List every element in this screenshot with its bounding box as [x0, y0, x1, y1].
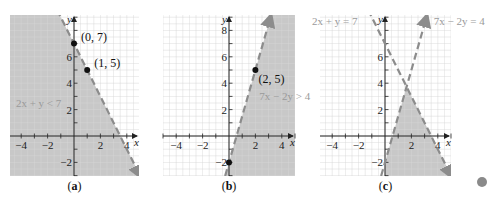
y-tick-label: 2	[222, 104, 228, 116]
x-axis-label: x	[133, 136, 139, 148]
y-tick-label: 4	[222, 77, 228, 89]
x-tick-label: −4	[170, 139, 182, 151]
x-axis-label: x	[445, 136, 451, 148]
panel-caption: (b)	[222, 179, 237, 193]
panel-caption: (a)	[68, 179, 82, 193]
graph-panel-a: xy−4−224−22462x + y < 7(0, 7)(1, 5)(a)	[10, 10, 140, 193]
graph-panel-b: xy−4−224−224687x − 2y > 4(2, 5)(b)	[163, 13, 311, 193]
graph-panel-c: xy−4−224−22462x + y = 77x − 2y = 4(c)	[312, 10, 485, 193]
y-tick-label: 4	[67, 77, 73, 89]
y-tick-label: 6	[67, 51, 73, 63]
x-tick-label: 4	[279, 139, 285, 151]
y-tick-label: −2	[60, 156, 72, 168]
point-label: (2, 5)	[258, 72, 284, 86]
y-tick-label: 4	[378, 77, 384, 89]
x-tick-label: 2	[98, 139, 104, 151]
panel-caption: (c)	[379, 179, 392, 193]
data-point	[84, 67, 90, 73]
y-tick-label: 8	[222, 24, 228, 36]
y-tick-label: 2	[67, 104, 73, 116]
point-label: (1, 5)	[94, 56, 120, 70]
boundary-line-label: 7x − 2y = 4	[434, 15, 485, 27]
data-point	[71, 41, 77, 47]
y-tick-label: −2	[215, 156, 227, 168]
boundary-line-label: 2x + y = 7	[312, 15, 358, 27]
x-tick-label: 2	[409, 139, 415, 151]
x-tick-label: −4	[326, 139, 338, 151]
x-tick-label: −4	[15, 139, 27, 151]
inequality-label: 7x − 2y > 4	[259, 90, 310, 102]
x-tick-label: −2	[353, 139, 365, 151]
x-axis-label: x	[289, 136, 295, 148]
y-tick-label: −2	[371, 156, 383, 168]
data-point	[226, 159, 232, 165]
inequality-graphs-figure: xy−4−224−22462x + y < 7(0, 7)(1, 5)(a) x…	[0, 0, 497, 203]
inequality-label: 2x + y < 7	[16, 97, 62, 109]
y-axis-label: y	[377, 13, 383, 25]
x-tick-label: −2	[197, 139, 209, 151]
x-tick-label: −2	[42, 139, 54, 151]
y-axis-label: y	[66, 13, 72, 25]
y-tick-label: 2	[378, 104, 384, 116]
x-tick-label: 2	[253, 139, 259, 151]
point-label: (0, 7)	[81, 30, 107, 44]
y-tick-label: 6	[378, 51, 384, 63]
y-tick-label: 6	[222, 51, 228, 63]
y-axis-label: y	[221, 13, 227, 25]
marker-dot	[477, 177, 487, 187]
